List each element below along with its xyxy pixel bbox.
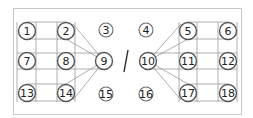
node-14: 14: [58, 85, 75, 102]
node-16: 16: [139, 87, 153, 101]
node-grid-diagram: 123456789101112131415161718: [0, 0, 253, 118]
node-label: 17: [181, 87, 195, 100]
node-15: 15: [99, 87, 113, 101]
connector-lines: [17, 22, 237, 102]
nodes: 123456789101112131415161718: [19, 23, 237, 102]
node-label: 1: [24, 25, 31, 38]
node-label: 11: [181, 55, 195, 68]
node-5: 5: [180, 23, 197, 40]
node-2: 2: [58, 23, 75, 40]
node-12: 12: [220, 53, 237, 70]
node-1: 1: [19, 23, 36, 40]
node-4: 4: [139, 23, 153, 37]
diagram-frame: [14, 9, 242, 115]
node-8: 8: [58, 53, 75, 70]
node-3: 3: [99, 23, 113, 37]
node-9: 9: [96, 53, 113, 70]
node-label: 7: [24, 55, 31, 68]
node-label: 5: [185, 25, 192, 38]
node-label: 10: [141, 55, 155, 68]
node-label: 15: [99, 88, 113, 101]
node-label: 14: [59, 87, 73, 100]
node-label: 8: [63, 55, 70, 68]
node-13: 13: [19, 85, 36, 102]
node-7: 7: [19, 53, 36, 70]
node-18: 18: [220, 85, 237, 102]
node-label: 16: [139, 88, 153, 101]
node-label: 3: [103, 24, 110, 37]
node-label: 12: [221, 55, 235, 68]
node-label: 13: [20, 87, 34, 100]
node-10: 10: [140, 53, 157, 70]
node-label: 9: [101, 55, 108, 68]
node-11: 11: [180, 53, 197, 70]
node-label: 2: [63, 25, 70, 38]
separator-slash: [124, 50, 128, 72]
node-label: 6: [225, 25, 232, 38]
node-6: 6: [220, 23, 237, 40]
node-label: 18: [221, 87, 235, 100]
node-17: 17: [180, 85, 197, 102]
node-label: 4: [143, 24, 150, 37]
